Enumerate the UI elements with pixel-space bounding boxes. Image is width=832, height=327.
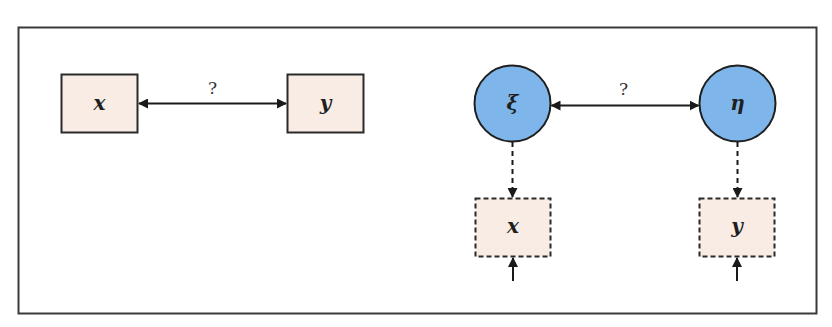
observed-y-label: y <box>319 91 333 115</box>
right-panel: ξ η ? x y <box>475 66 776 282</box>
observed-x-label: x <box>93 91 107 115</box>
indicator-x-label: x <box>506 214 520 238</box>
latent-xi-node: ξ <box>475 66 551 142</box>
indicator-x-node: x <box>476 199 551 257</box>
indicator-y-node: y <box>700 199 775 257</box>
outer-frame <box>19 28 817 314</box>
latent-xi-label: ξ <box>507 91 520 115</box>
latent-eta-label: η <box>730 91 745 115</box>
indicator-y-label: y <box>730 214 744 238</box>
diagram-canvas: x y ? ξ η ? x <box>0 0 832 327</box>
observed-y-node: y <box>288 75 364 133</box>
right-relation-label: ? <box>619 79 628 99</box>
left-relation-label: ? <box>208 78 217 98</box>
left-panel: x y ? <box>62 75 364 133</box>
latent-eta-node: η <box>700 66 776 142</box>
observed-x-node: x <box>62 75 138 133</box>
